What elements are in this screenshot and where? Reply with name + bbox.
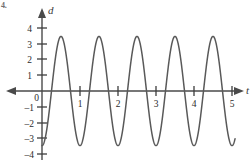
y-tick-label-4: 4 xyxy=(27,24,32,34)
y-tick-label-neg-1: –1 xyxy=(24,103,35,113)
y-tick-label-1: 1 xyxy=(27,71,32,81)
x-tick-labels: 1 2 3 4 5 xyxy=(78,99,235,109)
figure-container: 4. 4 xyxy=(0,0,251,164)
y-tick-label-neg-2: –2 xyxy=(24,119,35,129)
x-tick-label-4: 4 xyxy=(192,99,197,109)
x-axis-right-arrow xyxy=(234,87,244,95)
x-axis-label: t xyxy=(246,84,250,96)
x-tick-label-5: 5 xyxy=(230,99,235,109)
x-tick-label-2: 2 xyxy=(116,99,121,109)
y-tick-label-0: 0 xyxy=(34,93,39,103)
y-tick-label-3: 3 xyxy=(27,40,32,50)
x-axis-left-arrow xyxy=(6,87,16,95)
y-tick-label-neg-4: –4 xyxy=(24,150,35,160)
chart-plot: 4 3 2 1 0 –1 –2 –3 –4 1 2 3 4 5 d t xyxy=(0,0,251,164)
x-tick-label-1: 1 xyxy=(78,99,83,109)
y-axis-label: d xyxy=(48,4,54,16)
x-tick-label-3: 3 xyxy=(154,99,159,109)
y-axis-up-arrow xyxy=(38,8,46,18)
y-tick-label-2: 2 xyxy=(27,55,32,65)
y-tick-label-neg-3: –3 xyxy=(24,134,35,144)
axis-group xyxy=(6,8,244,160)
